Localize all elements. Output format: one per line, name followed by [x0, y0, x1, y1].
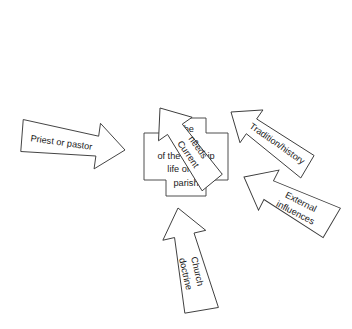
arrow-priest-or-pastor: Priest or pastor [18, 113, 128, 173]
arrow-tradition-history: Tradition/history [220, 96, 321, 183]
arrow-church-doctrine: Church doctrine [157, 203, 224, 316]
arrow-external-influences: External influences [234, 157, 344, 242]
diagram-canvas: The shape of the worship life of the par… [0, 0, 352, 329]
arrow-tradition-history-label: Tradition/history [248, 121, 307, 167]
worship-shape-diagram: The shape of the worship life of the par… [0, 0, 352, 329]
